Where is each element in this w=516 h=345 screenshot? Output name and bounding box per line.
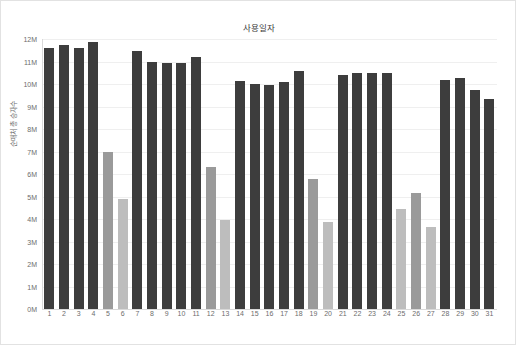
x-axis-tick-label: 21 — [335, 310, 350, 317]
bar-slot — [203, 39, 218, 309]
x-axis-tick-label: 17 — [277, 310, 292, 317]
bar[interactable] — [250, 84, 260, 309]
x-axis-tick-label: 25 — [394, 310, 409, 317]
bar[interactable] — [470, 90, 480, 309]
bar[interactable] — [382, 73, 392, 309]
x-axis-tick-label: 15 — [247, 310, 262, 317]
x-axis-tick-label: 20 — [321, 310, 336, 317]
bar-slot — [453, 39, 468, 309]
x-axis-tick-label: 23 — [365, 310, 380, 317]
x-axis-tick-label: 7 — [130, 310, 145, 317]
y-axis-tick-label: 7M — [27, 148, 37, 155]
y-axis-tick-label: 11M — [24, 58, 37, 65]
bar[interactable] — [176, 63, 186, 309]
bar-slot — [233, 39, 248, 309]
bar-slot — [57, 39, 72, 309]
bar[interactable] — [220, 220, 230, 309]
bar-slot — [467, 39, 482, 309]
x-axis-tick-label: 3 — [71, 310, 86, 317]
bar[interactable] — [74, 48, 84, 309]
bar-slot — [115, 39, 130, 309]
bar[interactable] — [308, 179, 318, 310]
x-axis-tick-label: 9 — [159, 310, 174, 317]
y-axis-tick-label: 3M — [27, 238, 37, 245]
bar[interactable] — [118, 199, 128, 309]
y-axis-tick-label: 1M — [27, 283, 37, 290]
x-axis-tick-label: 10 — [174, 310, 189, 317]
x-axis-tick-label: 13 — [218, 310, 233, 317]
bar-slot — [130, 39, 145, 309]
x-axis-tick-label: 6 — [115, 310, 130, 317]
x-axis-tick-label: 26 — [409, 310, 424, 317]
bar[interactable] — [162, 63, 172, 309]
x-axis-tick-label: 28 — [438, 310, 453, 317]
bar[interactable] — [59, 45, 69, 309]
bar-slot — [335, 39, 350, 309]
bar-slot — [174, 39, 189, 309]
bar[interactable] — [88, 42, 98, 309]
bar[interactable] — [206, 167, 216, 309]
bar[interactable] — [426, 227, 436, 309]
x-axis-tick-label: 14 — [233, 310, 248, 317]
bar[interactable] — [279, 82, 289, 309]
x-axis-tick-label: 1 — [42, 310, 57, 317]
x-axis-tick-label: 5 — [101, 310, 116, 317]
bar[interactable] — [44, 48, 54, 309]
y-axis-tick-label: 2M — [27, 261, 37, 268]
x-axis-tick-label: 2 — [57, 310, 72, 317]
bar-slot — [101, 39, 116, 309]
bar-slot — [379, 39, 394, 309]
bar-slot — [189, 39, 204, 309]
bar[interactable] — [411, 193, 421, 309]
bar[interactable] — [338, 75, 348, 309]
x-axis-tick-label: 19 — [306, 310, 321, 317]
bar[interactable] — [132, 51, 142, 309]
y-axis-label: 순매처 총 승자수 — [8, 69, 18, 179]
bar-slot — [247, 39, 262, 309]
y-axis-tick-label: 4M — [27, 216, 37, 223]
y-axis-tick-label: 12M — [23, 36, 37, 43]
bar[interactable] — [235, 81, 245, 309]
bar-slot — [291, 39, 306, 309]
bar[interactable] — [103, 152, 113, 310]
bar[interactable] — [323, 222, 333, 309]
bar-slot — [71, 39, 86, 309]
bar[interactable] — [352, 73, 362, 309]
x-axis-tick-label: 31 — [482, 310, 497, 317]
x-axis-ticks: 1234567891011121314151617181920212223242… — [42, 310, 497, 317]
y-axis-tick-label: 10M — [23, 81, 37, 88]
bar[interactable] — [191, 57, 201, 309]
bar-slot — [423, 39, 438, 309]
bar-slot — [277, 39, 292, 309]
bar[interactable] — [396, 209, 406, 309]
bar[interactable] — [440, 80, 450, 310]
bar-slot — [438, 39, 453, 309]
x-axis-tick-label: 11 — [189, 310, 204, 317]
bar[interactable] — [455, 78, 465, 309]
plot-area: 12M11M10M9M8M7M6M5M4M3M2M1M0M — [42, 39, 497, 309]
chart-title: 사용일자 — [1, 21, 516, 33]
x-axis-tick-label: 30 — [467, 310, 482, 317]
bar[interactable] — [264, 85, 274, 309]
x-axis-tick-label: 16 — [262, 310, 277, 317]
bar-slot — [306, 39, 321, 309]
chart-container: 사용일자 순매처 총 승자수 12M11M10M9M8M7M6M5M4M3M2M… — [0, 0, 516, 345]
y-axis-tick-label: 8M — [27, 126, 37, 133]
bar-slot — [42, 39, 57, 309]
bar-slot — [394, 39, 409, 309]
x-axis-tick-label: 29 — [453, 310, 468, 317]
x-axis-tick-label: 8 — [145, 310, 160, 317]
bar-slot — [350, 39, 365, 309]
bar-series — [42, 39, 497, 309]
bar[interactable] — [367, 73, 377, 309]
bar[interactable] — [294, 71, 304, 310]
y-axis-tick-label: 9M — [27, 103, 37, 110]
x-axis-tick-label: 22 — [350, 310, 365, 317]
bar[interactable] — [147, 62, 157, 310]
x-axis-tick-label: 27 — [423, 310, 438, 317]
bar[interactable] — [484, 99, 494, 309]
bar-slot — [86, 39, 101, 309]
x-axis-tick-label: 24 — [379, 310, 394, 317]
y-axis-tick-label: 5M — [27, 193, 37, 200]
y-axis-tick-label: 6M — [27, 171, 37, 178]
